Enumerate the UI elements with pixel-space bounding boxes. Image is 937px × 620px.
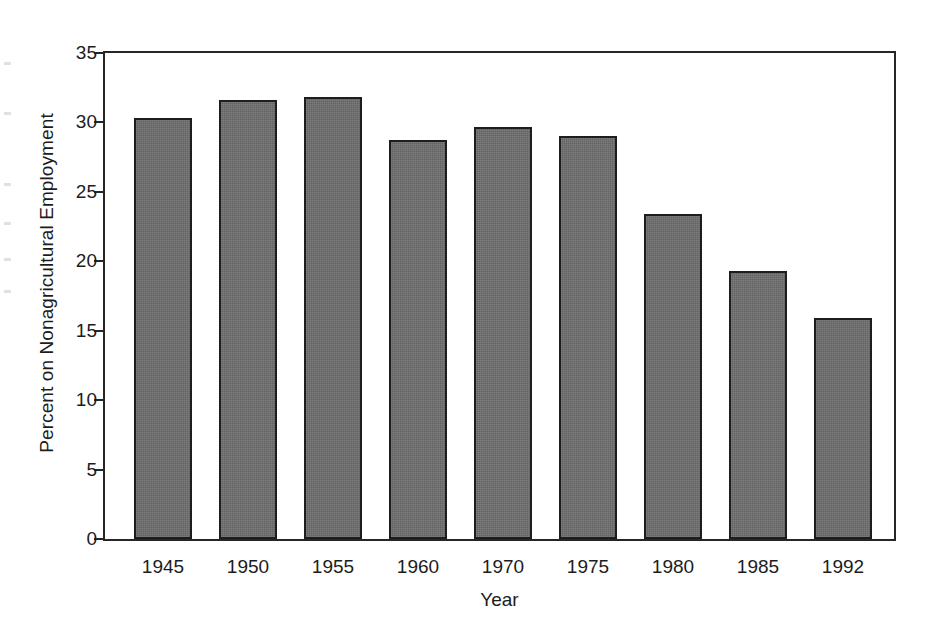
x-tick-label-1955: 1955 <box>312 556 354 578</box>
y-tick-label-5: 5 <box>86 459 97 481</box>
bar-1980 <box>644 214 702 539</box>
bar-1950 <box>219 100 277 539</box>
plot-area: 05101520253035 <box>105 53 894 539</box>
x-tick-label-1985: 1985 <box>737 556 779 578</box>
bar-1960 <box>389 140 447 539</box>
x-tick-label-1950: 1950 <box>227 556 269 578</box>
x-tick-label-1975: 1975 <box>567 556 609 578</box>
bars-layer <box>105 53 894 539</box>
x-axis-title: Year <box>103 589 896 611</box>
bar-1985 <box>729 271 787 539</box>
x-tick-label-1970: 1970 <box>482 556 524 578</box>
y-tick-label-15: 15 <box>76 320 97 342</box>
bar-1992 <box>814 318 872 539</box>
y-tick-label-35: 35 <box>76 42 97 64</box>
y-tick-label-0: 0 <box>86 528 97 550</box>
bar-1975 <box>559 136 617 539</box>
x-tick-label-1960: 1960 <box>397 556 439 578</box>
bar-1945 <box>134 118 192 539</box>
x-tick-label-1992: 1992 <box>822 556 864 578</box>
y-axis-title: Percent on Nonagricultural Employment <box>36 68 58 498</box>
plot-frame: 05101520253035 <box>103 51 896 541</box>
y-tick-label-20: 20 <box>76 250 97 272</box>
bar-1955 <box>304 97 362 539</box>
x-tick-label-1945: 1945 <box>142 556 184 578</box>
y-tick-label-10: 10 <box>76 389 97 411</box>
y-tick-label-25: 25 <box>76 181 97 203</box>
y-tick-label-30: 30 <box>76 111 97 133</box>
bar-1970 <box>474 127 532 539</box>
x-tick-label-1980: 1980 <box>652 556 694 578</box>
bar-chart-figure: Percent on Nonagricultural Employment 05… <box>0 0 937 620</box>
